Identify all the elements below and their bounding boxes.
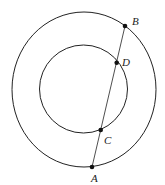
label-a: A	[90, 172, 98, 184]
label-b: B	[132, 15, 139, 27]
concentric-circles-diagram: A C D B	[0, 0, 165, 185]
inner-circle	[40, 45, 128, 133]
label-d: D	[121, 56, 130, 68]
point-d	[114, 60, 119, 65]
point-b	[123, 24, 128, 29]
point-a	[90, 165, 95, 170]
label-c: C	[104, 134, 112, 146]
outer-circle	[12, 12, 156, 167]
point-c	[98, 128, 103, 133]
